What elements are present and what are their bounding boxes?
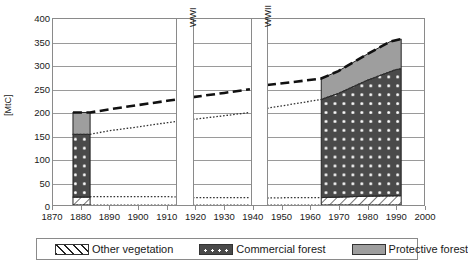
x-tickmark-1970 [339, 206, 340, 210]
x-tick-1990: 1990 [386, 211, 407, 222]
legend-item-commercial-forest: Commercial forest [199, 239, 325, 259]
x-tick-1890: 1890 [99, 211, 120, 222]
x-tick-1870: 1870 [41, 211, 62, 222]
line-total-panel-1 [73, 100, 176, 113]
x-axis-ticks: 1870188018901900191019201930194019501960… [52, 206, 425, 232]
bar-segment-protective-forest [73, 112, 90, 134]
x-tick-1910: 1910 [156, 211, 177, 222]
chart-legend: Other vegetation Commercial forest Prote… [36, 238, 418, 260]
x-tick-1970: 1970 [328, 211, 349, 222]
chart-area: [MtC] 400350300250200150100500 WWIWWII [0, 0, 435, 232]
y-tick-100: 100 [16, 155, 50, 164]
legend-item-other-vegetation: Other vegetation [55, 239, 173, 259]
x-tick-1950: 1950 [271, 211, 292, 222]
legend-label-commercial-forest: Commercial forest [236, 243, 325, 255]
y-axis-ticks: 400350300250200150100500 [0, 0, 50, 232]
legend-swatch-protective-forest [352, 244, 386, 255]
x-tick-2000: 2000 [414, 211, 435, 222]
y-tick-400: 400 [16, 14, 50, 23]
x-tickmark-1980 [368, 206, 369, 210]
x-tickmark-1890 [109, 206, 110, 210]
legend-label-protective-forest: Protective forest [389, 243, 468, 255]
x-tick-1880: 1880 [70, 211, 91, 222]
x-tick-1960: 1960 [300, 211, 321, 222]
line-total-panel-2 [193, 89, 250, 97]
x-tickmark-1870 [52, 206, 53, 210]
y-tick-0: 0 [16, 202, 50, 211]
x-tick-1940: 1940 [242, 211, 263, 222]
y-tick-150: 150 [16, 131, 50, 140]
bar-segment-commercial-forest [73, 134, 90, 197]
x-tickmark-1930 [224, 206, 225, 210]
y-tick-250: 250 [16, 84, 50, 93]
x-tick-1930: 1930 [214, 211, 235, 222]
line-commercial-cumulative-panel-2 [193, 112, 250, 119]
x-tickmark-1950 [282, 206, 283, 210]
x-tickmark-2000 [425, 206, 426, 210]
war-band-wwii: WWII [251, 19, 268, 205]
y-tick-200: 200 [16, 108, 50, 117]
x-tick-1900: 1900 [127, 211, 148, 222]
x-tickmark-1920 [195, 206, 196, 210]
y-tick-300: 300 [16, 61, 50, 70]
x-tickmark-1910 [167, 206, 168, 210]
x-tickmark-1990 [396, 206, 397, 210]
legend-swatch-commercial-forest [199, 244, 233, 255]
war-band-label-wwi: WWI [188, 8, 198, 28]
x-tickmark-1900 [138, 206, 139, 210]
legend-swatch-other-vegetation [55, 244, 89, 255]
x-tickmark-1940 [253, 206, 254, 210]
war-band-label-wwii: WWII [263, 5, 273, 27]
x-tickmark-1960 [310, 206, 311, 210]
x-tick-1980: 1980 [357, 211, 378, 222]
x-tickmark-1880 [81, 206, 82, 210]
plot-region: WWIWWII [52, 18, 425, 206]
legend-label-other-vegetation: Other vegetation [92, 243, 173, 255]
data-layer [53, 19, 424, 205]
war-band-wwi: WWI [176, 19, 193, 205]
bar-segment-other-vegetation [73, 197, 90, 205]
legend-item-protective-forest: Protective forest [352, 239, 468, 259]
x-tick-1920: 1920 [185, 211, 206, 222]
y-tick-50: 50 [16, 178, 50, 187]
y-tick-350: 350 [16, 37, 50, 46]
